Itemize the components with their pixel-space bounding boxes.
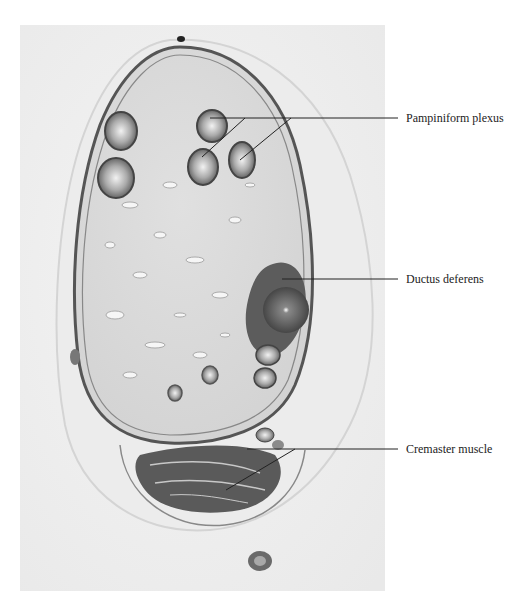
label-pampiniform-plexus: Pampiniform plexus (406, 111, 504, 125)
label-cremaster-muscle: Cremaster muscle (406, 442, 492, 456)
label-ductus-deferens: Ductus deferens (406, 272, 484, 286)
tissue-section (20, 25, 385, 591)
micrograph (20, 25, 385, 591)
